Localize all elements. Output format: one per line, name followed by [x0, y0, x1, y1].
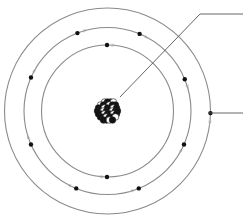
atom-diagram: [0, 0, 243, 219]
electron: [105, 43, 109, 47]
electron: [74, 186, 78, 190]
electron: [137, 32, 141, 36]
electron: [75, 31, 79, 35]
electron: [105, 175, 109, 179]
electron: [183, 77, 187, 81]
nucleus-label-line: [120, 14, 243, 97]
nucleus: [94, 99, 121, 124]
label-lines: [120, 14, 243, 113]
electron: [29, 75, 33, 79]
electron: [137, 186, 141, 190]
proton: [109, 117, 116, 124]
electron: [182, 142, 186, 146]
electron: [29, 142, 33, 146]
